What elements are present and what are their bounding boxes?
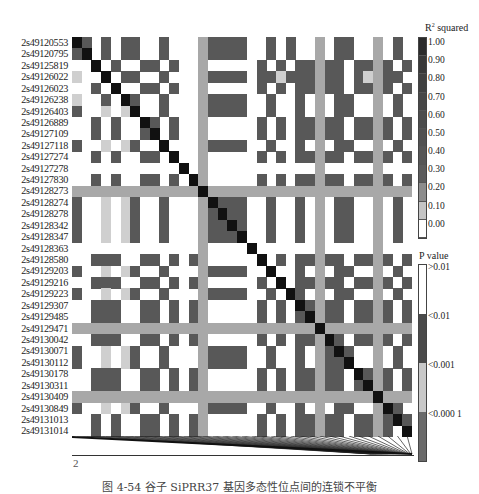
ld-cell xyxy=(383,323,393,335)
ld-cell xyxy=(334,277,344,289)
ld-cell xyxy=(276,117,286,129)
ld-cell xyxy=(295,60,305,72)
ld-cell xyxy=(373,48,383,60)
r2-scale-segment xyxy=(419,56,426,74)
ld-cell xyxy=(169,128,179,140)
ld-cell xyxy=(72,323,82,335)
ld-cell xyxy=(101,186,111,198)
ld-cell xyxy=(150,414,160,426)
ld-cell xyxy=(373,391,383,403)
ld-cell xyxy=(227,140,237,152)
ld-cell xyxy=(169,186,179,198)
ld-cell xyxy=(373,288,383,300)
r2-legend-title: R2 squared xyxy=(425,22,468,33)
ld-cell xyxy=(130,391,140,403)
ld-cell xyxy=(72,48,82,60)
ld-cell xyxy=(121,186,131,198)
ld-cell xyxy=(227,37,237,49)
chromosome-label: 2 xyxy=(73,457,79,469)
ld-cell xyxy=(130,220,140,232)
ld-cell xyxy=(295,220,305,232)
ld-cell xyxy=(198,140,208,152)
ld-cell xyxy=(150,311,160,323)
ld-cell xyxy=(208,37,218,49)
ld-cell xyxy=(91,380,101,392)
ld-cell xyxy=(198,346,208,358)
ld-cell xyxy=(315,311,325,323)
ld-cell xyxy=(334,140,344,152)
ld-cell xyxy=(257,334,267,346)
ld-cell xyxy=(393,220,403,232)
locus-label: 2s49130178 xyxy=(0,368,70,379)
ld-cell xyxy=(315,94,325,106)
ld-cell xyxy=(101,403,111,415)
ld-cell xyxy=(159,208,169,220)
ld-cell xyxy=(295,368,305,380)
ld-cell xyxy=(266,231,276,243)
locus-label: 2s49129471 xyxy=(0,323,70,334)
ld-cell xyxy=(344,357,354,369)
ld-cell xyxy=(237,186,247,198)
ld-cell xyxy=(111,391,121,403)
ld-cell xyxy=(237,106,247,118)
ld-cell xyxy=(325,368,335,380)
r2-scale-segment xyxy=(419,183,426,201)
ld-cell xyxy=(198,151,208,163)
ld-cell xyxy=(121,220,131,232)
ld-cell xyxy=(130,403,140,415)
ld-cell xyxy=(208,186,218,198)
p-scale-segment xyxy=(419,265,426,314)
ld-cell xyxy=(91,186,101,198)
ld-cell xyxy=(150,380,160,392)
p-legend-title: P value xyxy=(419,250,448,261)
ld-cell xyxy=(334,60,344,72)
ld-cell xyxy=(111,334,121,346)
ld-cell xyxy=(198,174,208,186)
ld-cell xyxy=(393,186,403,198)
locus-label: 2s49127274 xyxy=(0,151,70,162)
ld-cell xyxy=(393,323,403,335)
ld-cell xyxy=(150,128,160,140)
ld-cell xyxy=(344,266,354,278)
ld-cell xyxy=(334,94,344,106)
ld-cell xyxy=(266,403,276,415)
locus-label: 2s49131014 xyxy=(0,425,70,436)
ld-cell xyxy=(237,94,247,106)
ld-cell xyxy=(334,83,344,95)
ld-cell xyxy=(373,140,383,152)
ld-cell xyxy=(198,37,208,49)
ld-cell xyxy=(91,368,101,380)
r2-scale-segment xyxy=(419,220,426,238)
ld-cell xyxy=(237,323,247,335)
ld-cell xyxy=(325,277,335,289)
r2-scale-segment xyxy=(419,129,426,147)
ld-cell xyxy=(363,151,373,163)
ld-cell xyxy=(189,277,199,289)
ld-cell xyxy=(169,174,179,186)
ld-cell xyxy=(325,334,335,346)
ld-cell xyxy=(393,140,403,152)
p-tick: <0.000 1 xyxy=(428,409,462,419)
ld-cell xyxy=(111,174,121,186)
ld-cell xyxy=(383,403,393,415)
ld-cell xyxy=(169,323,179,335)
chromosome-axis xyxy=(72,455,414,456)
ld-cell xyxy=(402,380,412,392)
ld-cell xyxy=(393,266,403,278)
ld-cell xyxy=(373,346,383,358)
ld-cell xyxy=(295,323,305,335)
ld-cell xyxy=(383,151,393,163)
ld-cell xyxy=(189,300,199,312)
ld-cell xyxy=(121,48,131,60)
ld-cell xyxy=(393,403,403,415)
ld-cell xyxy=(189,380,199,392)
ld-cell xyxy=(159,197,169,209)
ld-cell xyxy=(159,186,169,198)
ld-cell xyxy=(325,60,335,72)
ld-cell xyxy=(101,106,111,118)
ld-cell xyxy=(111,254,121,266)
ld-cell xyxy=(393,414,403,426)
ld-cell xyxy=(218,48,228,60)
ld-cell xyxy=(354,391,364,403)
locus-label: 2s49128580 xyxy=(0,254,70,265)
